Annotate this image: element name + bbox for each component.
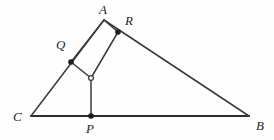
vertex-label-A: A — [99, 3, 107, 16]
vertex-label-C: C — [13, 110, 22, 123]
markers-group — [68, 29, 121, 119]
point-marker-Q — [68, 59, 74, 65]
vertex-label-R: R — [125, 14, 133, 27]
segment-RO — [91, 32, 118, 78]
point-marker-O — [89, 76, 94, 81]
figure-canvas — [0, 0, 274, 140]
segment-OQ — [71, 62, 91, 78]
vertex-label-B: B — [256, 119, 264, 132]
side-AB — [104, 20, 249, 116]
segment-AQ-side — [71, 20, 104, 62]
geometry-figure: A B C P Q R — [0, 0, 274, 140]
point-marker-R — [115, 29, 121, 35]
segments-group — [31, 20, 249, 116]
vertex-label-Q: Q — [56, 38, 65, 51]
point-marker-P — [88, 113, 94, 119]
vertex-label-P: P — [86, 122, 94, 135]
